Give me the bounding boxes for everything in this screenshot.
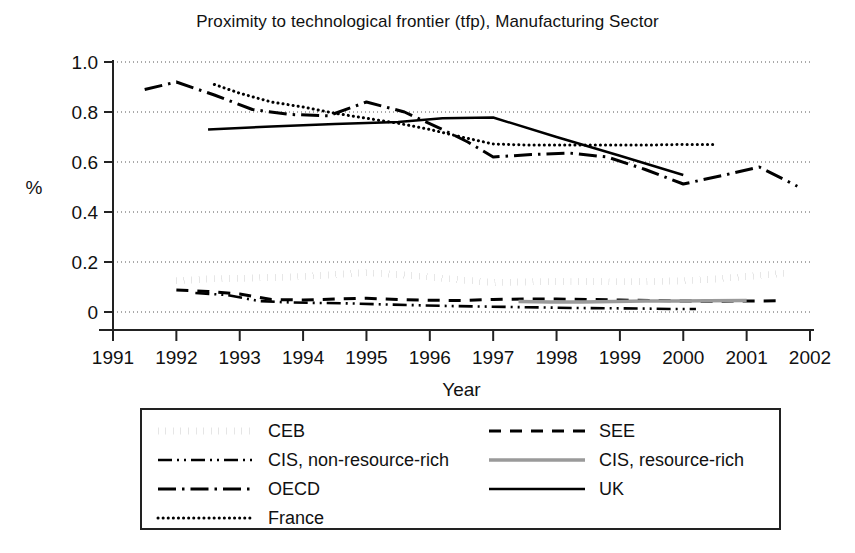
legend-item-label: CEB bbox=[268, 422, 305, 440]
legend-column-right: SEECIS, resource-richUK bbox=[487, 416, 777, 503]
legend-item-uk[interactable]: UK bbox=[487, 474, 777, 503]
y-axis-tick-label: 0.4 bbox=[72, 202, 99, 223]
chart-legend: CEBCIS, non-resource-richOECDFrance SEEC… bbox=[140, 408, 781, 530]
legend-line-sample bbox=[487, 481, 587, 497]
legend-line-sample bbox=[156, 481, 256, 497]
x-axis-tick-label: 2001 bbox=[725, 347, 767, 368]
legend-swatch-icon bbox=[156, 423, 256, 439]
legend-line-sample bbox=[487, 423, 587, 439]
series-line-uk bbox=[208, 118, 683, 176]
legend-item-cis-non-resource-rich[interactable]: CIS, non-resource-rich bbox=[156, 445, 486, 474]
y-axis-tick-label: 1.0 bbox=[72, 52, 98, 73]
legend-swatch-icon bbox=[156, 452, 256, 468]
legend-item-label: OECD bbox=[268, 480, 320, 498]
y-axis-title: % bbox=[26, 177, 43, 198]
x-axis-tick-label: 1997 bbox=[472, 347, 514, 368]
x-axis-tick-label: 1995 bbox=[345, 347, 387, 368]
x-axis-tick-label: 2002 bbox=[789, 347, 831, 368]
legend-swatch-icon bbox=[487, 423, 587, 439]
series-line-cis-resource-rich bbox=[519, 301, 747, 303]
y-axis-tick-label: 0.2 bbox=[72, 252, 98, 273]
x-axis-tick-label: 1994 bbox=[282, 347, 325, 368]
legend-item-label: CIS, non-resource-rich bbox=[268, 451, 449, 469]
legend-item-cis-resource-rich[interactable]: CIS, resource-rich bbox=[487, 445, 777, 474]
series-line-ceb bbox=[176, 273, 784, 283]
series-line-france bbox=[214, 85, 715, 146]
legend-line-sample bbox=[156, 423, 256, 439]
legend-item-label: UK bbox=[599, 480, 624, 498]
legend-column-left: CEBCIS, non-resource-richOECDFrance bbox=[156, 416, 486, 532]
x-axis-tick-label: 1993 bbox=[219, 347, 261, 368]
legend-swatch-icon bbox=[487, 452, 587, 468]
legend-item-label: SEE bbox=[599, 422, 635, 440]
legend-item-label: France bbox=[268, 509, 324, 527]
chart-plot-area: 00.20.40.60.81.0199119921993199419951996… bbox=[0, 0, 855, 400]
x-axis-tick-label: 1998 bbox=[535, 347, 577, 368]
legend-swatch-icon bbox=[156, 510, 256, 526]
legend-item-see[interactable]: SEE bbox=[487, 416, 777, 445]
legend-item-label: CIS, resource-rich bbox=[599, 451, 744, 469]
legend-item-oecd[interactable]: OECD bbox=[156, 474, 486, 503]
y-axis-tick-label: 0 bbox=[87, 302, 98, 323]
x-axis-tick-label: 1996 bbox=[409, 347, 451, 368]
x-axis-title: Year bbox=[442, 379, 481, 400]
legend-item-france[interactable]: France bbox=[156, 503, 486, 532]
legend-swatch-icon bbox=[487, 481, 587, 497]
series-line-oecd bbox=[145, 82, 798, 186]
y-axis-tick-label: 0.6 bbox=[72, 152, 98, 173]
x-axis-tick-label: 2000 bbox=[662, 347, 704, 368]
chart-page: Proximity to technological frontier (tfp… bbox=[0, 0, 855, 553]
legend-line-sample bbox=[156, 452, 256, 468]
x-axis-tick-label: 1992 bbox=[155, 347, 197, 368]
legend-item-ceb[interactable]: CEB bbox=[156, 416, 486, 445]
x-axis-tick-label: 1991 bbox=[92, 347, 134, 368]
y-axis-tick-label: 0.8 bbox=[72, 102, 98, 123]
x-axis-tick-label: 1999 bbox=[599, 347, 641, 368]
legend-line-sample bbox=[156, 510, 256, 526]
legend-line-sample bbox=[487, 452, 587, 468]
legend-swatch-icon bbox=[156, 481, 256, 497]
